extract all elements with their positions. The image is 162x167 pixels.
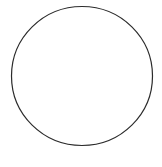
circle-outline [12, 7, 153, 146]
diagram-canvas [0, 0, 162, 167]
